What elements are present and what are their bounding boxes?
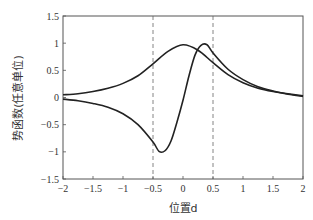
x-tick-label: 2 bbox=[301, 183, 306, 194]
data-series bbox=[63, 44, 303, 152]
y-tick-label: 0 bbox=[54, 92, 59, 103]
y-tick-label: 0.5 bbox=[47, 65, 60, 76]
x-tick-label: −1 bbox=[118, 183, 129, 194]
x-tick-label: 1 bbox=[241, 183, 246, 194]
y-tick-label: 1 bbox=[54, 38, 59, 49]
y-tick-label: −1.5 bbox=[41, 174, 59, 185]
line-chart: −2−1.5−1−0.500.511.52 1.510.50−0.5−1−1.5… bbox=[0, 0, 313, 220]
x-tick-label: −2 bbox=[58, 183, 69, 194]
series-line-symmetric-potential bbox=[63, 45, 303, 96]
y-axis: 1.510.50−0.5−1−1.5 bbox=[41, 11, 66, 185]
x-tick-label: −0.5 bbox=[144, 183, 162, 194]
x-tick-label: −1.5 bbox=[84, 183, 102, 194]
y-tick-label: 1.5 bbox=[47, 11, 60, 22]
x-axis-title: 位置d bbox=[169, 201, 198, 215]
y-tick-label: −0.5 bbox=[41, 119, 59, 130]
y-axis-title: 势函数(任意单位) bbox=[11, 55, 25, 141]
x-tick-label: 0 bbox=[181, 183, 186, 194]
x-tick-label: 0.5 bbox=[207, 183, 220, 194]
series-line-antisymmetric-potential bbox=[63, 44, 303, 152]
x-tick-label: 1.5 bbox=[267, 183, 280, 194]
y-tick-label: −1 bbox=[48, 146, 59, 157]
